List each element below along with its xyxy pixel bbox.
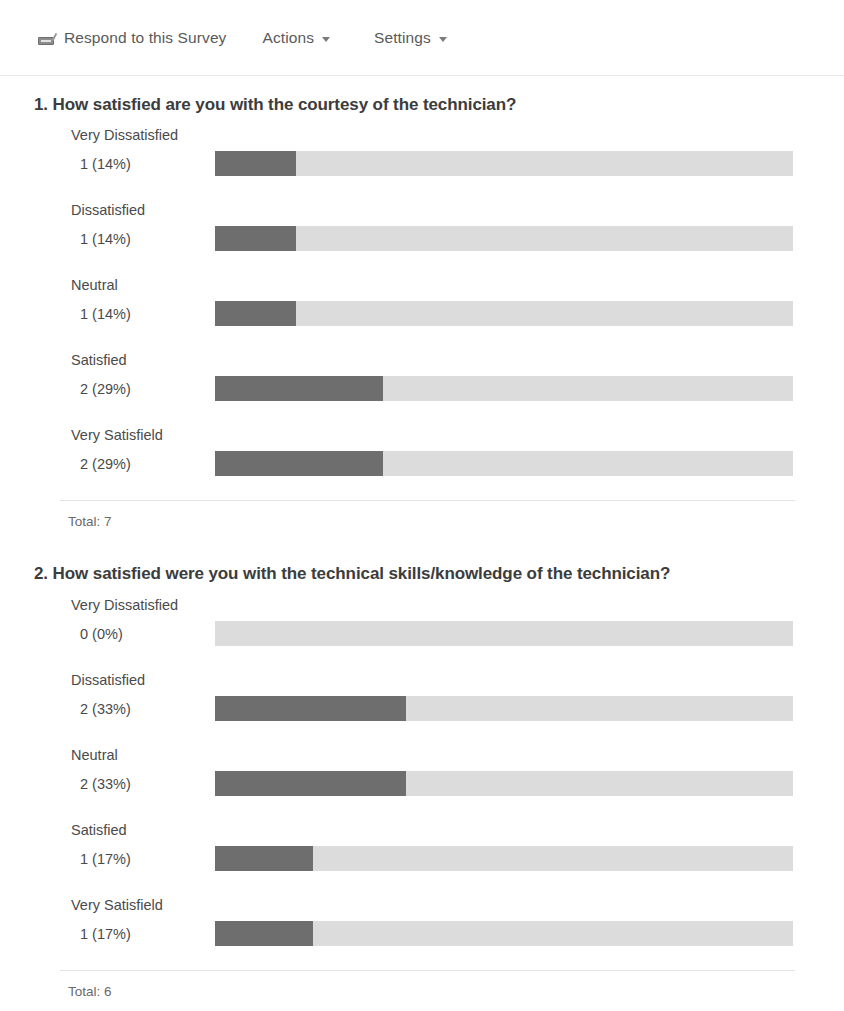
respond-to-survey-label: Respond to this Survey xyxy=(64,29,226,47)
settings-menu[interactable]: Settings xyxy=(374,29,447,47)
total-label: Total: 6 xyxy=(0,971,844,1011)
answer-row: Dissatisfied 1 (14%) xyxy=(0,200,844,275)
respond-to-survey-button[interactable]: Respond to this Survey xyxy=(38,29,226,47)
answer-row: Very Satisfield 2 (29%) xyxy=(0,425,844,500)
answer-count: 2 (29%) xyxy=(80,381,131,397)
total-divider xyxy=(60,500,795,501)
answer-label: Very Satisfield xyxy=(71,897,163,913)
bar-fill xyxy=(215,846,313,871)
answer-count: 1 (14%) xyxy=(80,156,131,172)
question-block: 2. How satisfied were you with the techn… xyxy=(0,545,844,1011)
bar-track xyxy=(215,846,793,871)
answer-label: Neutral xyxy=(71,277,118,293)
question-title: 1. How satisfied are you with the courte… xyxy=(0,76,844,125)
bar-track xyxy=(215,696,793,721)
answer-row: Very Dissatisfied 1 (14%) xyxy=(0,125,844,200)
answer-row: Neutral 1 (14%) xyxy=(0,275,844,350)
question-title: 2. How satisfied were you with the techn… xyxy=(0,545,844,594)
answer-count: 1 (14%) xyxy=(80,306,131,322)
answer-label: Neutral xyxy=(71,747,118,763)
chevron-down-icon xyxy=(322,37,330,42)
answer-label: Very Dissatisfied xyxy=(71,127,178,143)
answer-count: 1 (17%) xyxy=(80,851,131,867)
bar-fill xyxy=(215,451,383,476)
bar-track xyxy=(215,376,793,401)
bar-fill xyxy=(215,771,406,796)
bar-track xyxy=(215,226,793,251)
answer-count: 1 (17%) xyxy=(80,926,131,942)
answer-count: 2 (33%) xyxy=(80,776,131,792)
actions-menu-label: Actions xyxy=(262,29,314,47)
answer-label: Satisfied xyxy=(71,822,127,838)
bar-track xyxy=(215,451,793,476)
answer-label: Very Dissatisfied xyxy=(71,597,178,613)
settings-menu-label: Settings xyxy=(374,29,431,47)
bar-track xyxy=(215,301,793,326)
bar-fill xyxy=(215,376,383,401)
answer-count: 2 (29%) xyxy=(80,456,131,472)
answer-row: Satisfied 2 (29%) xyxy=(0,350,844,425)
answer-label: Dissatisfied xyxy=(71,672,145,688)
bar-track xyxy=(215,621,793,646)
bar-fill xyxy=(215,921,313,946)
bar-track xyxy=(215,771,793,796)
survey-results-content: 1. How satisfied are you with the courte… xyxy=(0,76,844,1011)
question-block: 1. How satisfied are you with the courte… xyxy=(0,76,844,545)
answer-label: Very Satisfield xyxy=(71,427,163,443)
bar-fill xyxy=(215,226,296,251)
answer-label: Dissatisfied xyxy=(71,202,145,218)
bar-track xyxy=(215,921,793,946)
answer-row: Dissatisfied 2 (33%) xyxy=(0,670,844,745)
total-label: Total: 7 xyxy=(0,501,844,545)
answer-row: Satisfied 1 (17%) xyxy=(0,820,844,895)
answer-row: Very Satisfield 1 (17%) xyxy=(0,895,844,970)
total-divider xyxy=(60,970,795,971)
bar-track xyxy=(215,151,793,176)
survey-toolbar: Respond to this Survey Actions Settings xyxy=(0,0,844,76)
survey-respond-icon xyxy=(38,32,55,45)
chevron-down-icon xyxy=(439,37,447,42)
answer-row: Very Dissatisfied 0 (0%) xyxy=(0,595,844,670)
answer-row: Neutral 2 (33%) xyxy=(0,745,844,820)
answer-count: 1 (14%) xyxy=(80,231,131,247)
bar-fill xyxy=(215,301,296,326)
bar-fill xyxy=(215,151,296,176)
actions-menu[interactable]: Actions xyxy=(262,29,330,47)
answer-count: 0 (0%) xyxy=(80,626,123,642)
bar-fill xyxy=(215,696,406,721)
answer-label: Satisfied xyxy=(71,352,127,368)
answer-count: 2 (33%) xyxy=(80,701,131,717)
